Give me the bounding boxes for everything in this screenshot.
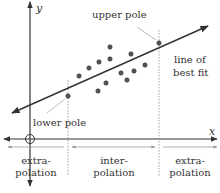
- data-point: [125, 78, 129, 82]
- data-point: [108, 45, 112, 49]
- data-point: [97, 60, 101, 64]
- x-axis-label: x: [209, 125, 216, 138]
- lower-pole-pointer: [47, 99, 65, 113]
- data-point: [108, 57, 112, 61]
- data-point: [119, 71, 123, 75]
- data-point: [129, 52, 133, 56]
- right-extrapolation-label-2: polation: [169, 167, 211, 178]
- lower-pole-label: lower pole: [33, 117, 86, 128]
- y-axis-label: y: [35, 2, 43, 15]
- data-point: [132, 69, 136, 73]
- upper-pole-pointer: [137, 27, 156, 40]
- interpolation-label-1: inter-: [100, 155, 128, 166]
- data-point: [87, 66, 91, 70]
- best-fit-label-1: line of: [174, 54, 207, 65]
- best-fit-label-2: best fit: [173, 67, 208, 78]
- interpolation-label-2: polation: [93, 167, 135, 178]
- left-extrapolation-label-1: extra-: [21, 155, 51, 166]
- data-point: [66, 94, 70, 98]
- data-point: [157, 41, 161, 45]
- interpolation-diagram: y x upper pole lower pole line of best f…: [0, 0, 220, 193]
- data-points: [66, 41, 161, 98]
- data-point: [104, 81, 108, 85]
- data-point: [96, 89, 100, 93]
- data-point: [143, 63, 147, 67]
- left-extrapolation-label-2: polation: [15, 167, 57, 178]
- upper-pole-label: upper pole: [92, 9, 147, 20]
- right-extrapolation-label-1: extra-: [175, 155, 205, 166]
- data-point: [77, 74, 81, 78]
